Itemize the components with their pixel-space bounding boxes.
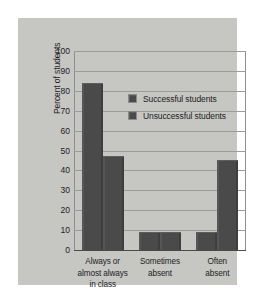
- legend-label: Successful students: [143, 94, 217, 104]
- gridline: [74, 71, 246, 72]
- bar: [160, 232, 181, 250]
- x-axis-tick-label-line: absent: [131, 268, 188, 280]
- x-axis-tick-label: Oftenabsent: [189, 256, 246, 279]
- bar: [82, 83, 103, 250]
- bar: [217, 160, 238, 250]
- legend-swatch-icon: [128, 111, 137, 120]
- x-axis-tick-labels: Always oralmost alwaysin classSometimesa…: [74, 256, 246, 301]
- y-axis-tick-label: 60: [24, 126, 74, 136]
- gridline: [74, 51, 246, 52]
- legend-swatch-icon: [128, 94, 137, 103]
- legend-label: Unsuccessful students: [143, 111, 226, 121]
- legend-item: Successful students: [128, 90, 252, 107]
- y-axis-tick-label: 50: [24, 146, 74, 156]
- bar: [139, 232, 160, 250]
- y-axis-tick-label: 70: [24, 106, 74, 116]
- y-axis-tick-label: 20: [24, 205, 74, 215]
- x-axis-tick-label: Always oralmost alwaysin class: [74, 256, 131, 291]
- chart-panel: Percent of students 10090807060504030201…: [18, 18, 237, 285]
- y-axis-tick-label: 40: [24, 165, 74, 175]
- y-axis-tick-label: 100: [24, 46, 74, 56]
- x-axis-line: [74, 250, 246, 251]
- x-axis-tick-label-line: absent: [189, 268, 246, 280]
- chart-legend: Successful studentsUnsuccessful students: [128, 90, 252, 124]
- x-axis-tick-label-line: in class: [74, 279, 131, 291]
- x-axis-tick-label-line: almost always: [74, 268, 131, 280]
- x-axis-tick-label-line: Always or: [74, 256, 131, 268]
- x-axis-tick-label-line: Often: [189, 256, 246, 268]
- x-axis-tick-label-line: Sometimes: [131, 256, 188, 268]
- y-axis-tick-label: 30: [24, 185, 74, 195]
- y-axis-tick-label: 0: [24, 245, 74, 255]
- plot-area: [74, 51, 246, 250]
- y-axis-tick-labels: 1009080706050403020100: [18, 51, 74, 250]
- y-axis-tick-label: 80: [24, 86, 74, 96]
- y-axis-tick-label: 10: [24, 225, 74, 235]
- x-axis-tick-label: Sometimesabsent: [131, 256, 188, 279]
- bar: [196, 232, 217, 250]
- legend-item: Unsuccessful students: [128, 107, 252, 124]
- bar: [103, 156, 124, 250]
- y-axis-tick-label: 90: [24, 66, 74, 76]
